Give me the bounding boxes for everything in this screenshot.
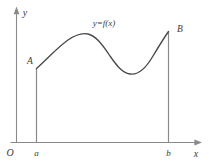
origin-label: O (6, 147, 13, 158)
point-label-a: A (26, 56, 33, 66)
point-label-b: B (177, 24, 183, 34)
function-label: y=f(x) (92, 18, 116, 28)
x-axis-arrow-icon (194, 140, 202, 146)
function-curve (37, 32, 169, 75)
function-graph-figure: y x O a b A B y=f(x) (0, 0, 210, 164)
y-axis-arrow-icon (14, 7, 20, 15)
x-tick-label-b: b (166, 148, 171, 158)
x-axis-label: x (193, 148, 199, 159)
y-axis-label: y (22, 7, 28, 18)
x-tick-label-a: a (34, 148, 39, 158)
